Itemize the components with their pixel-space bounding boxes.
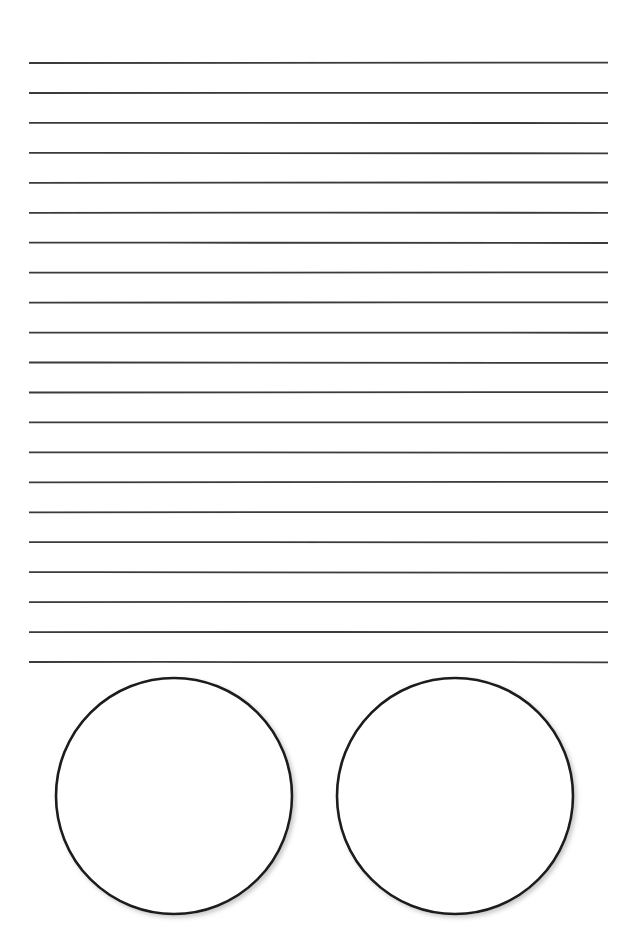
worksheet-canvas [0,0,639,942]
answer-circle-left-outline[interactable] [56,678,292,914]
answer-circle-left[interactable] [56,678,292,914]
answer-circle-right-outline[interactable] [337,678,573,914]
answer-circle-right[interactable] [337,678,573,914]
ruled-lines-group [29,63,608,663]
worksheet-page [0,0,639,942]
